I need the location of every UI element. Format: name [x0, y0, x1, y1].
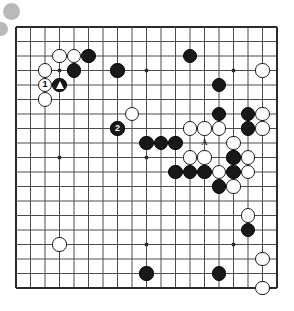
stone-black[interactable]	[52, 78, 66, 92]
stone-black[interactable]	[226, 165, 240, 179]
triangle-marker-icon	[56, 81, 64, 89]
stone-black[interactable]	[168, 136, 182, 150]
stone-white[interactable]	[183, 121, 197, 135]
stone-black[interactable]	[110, 63, 124, 77]
stone-white[interactable]	[255, 63, 269, 77]
stone-white[interactable]	[255, 107, 269, 121]
stone-black[interactable]	[139, 266, 153, 280]
stone-black[interactable]	[183, 165, 197, 179]
stone-black[interactable]	[67, 63, 81, 77]
stone-white[interactable]	[241, 150, 255, 164]
stone-white[interactable]	[38, 92, 52, 106]
stone-black[interactable]	[197, 165, 211, 179]
stone-white[interactable]	[241, 208, 255, 222]
stone-white[interactable]	[241, 165, 255, 179]
stone-white[interactable]	[67, 49, 81, 63]
decor-circle-1	[3, 3, 20, 20]
stone-white[interactable]	[38, 63, 52, 77]
stone-black[interactable]	[212, 107, 226, 121]
stone-move-number: 1	[42, 80, 47, 89]
stone-move-number: 2	[115, 124, 120, 133]
stone-white[interactable]	[212, 165, 226, 179]
stone-white[interactable]	[125, 107, 139, 121]
stone-white-move-1[interactable]: 1	[38, 78, 52, 92]
stone-white[interactable]	[255, 121, 269, 135]
stone-white[interactable]	[226, 136, 240, 150]
go-board[interactable]: 12A	[0, 0, 294, 311]
stone-white[interactable]	[212, 121, 226, 135]
stone-white[interactable]	[226, 179, 240, 193]
stone-white[interactable]	[183, 150, 197, 164]
stone-white[interactable]	[255, 281, 269, 295]
stone-black[interactable]	[154, 136, 168, 150]
stone-white[interactable]	[52, 237, 66, 251]
stone-black[interactable]	[168, 165, 182, 179]
stone-white[interactable]	[197, 150, 211, 164]
stone-black[interactable]	[81, 49, 95, 63]
stone-black[interactable]	[183, 49, 197, 63]
stone-black[interactable]	[241, 107, 255, 121]
stone-black-move-2[interactable]: 2	[110, 121, 124, 135]
stone-black[interactable]	[241, 223, 255, 237]
stone-black[interactable]	[241, 121, 255, 135]
stone-white[interactable]	[197, 121, 211, 135]
point-label-a: A	[199, 138, 211, 147]
stone-black[interactable]	[139, 136, 153, 150]
stone-black[interactable]	[212, 266, 226, 280]
stone-white[interactable]	[255, 252, 269, 266]
stone-black[interactable]	[226, 150, 240, 164]
stone-black[interactable]	[212, 78, 226, 92]
stone-black[interactable]	[212, 179, 226, 193]
stone-white[interactable]	[52, 49, 66, 63]
